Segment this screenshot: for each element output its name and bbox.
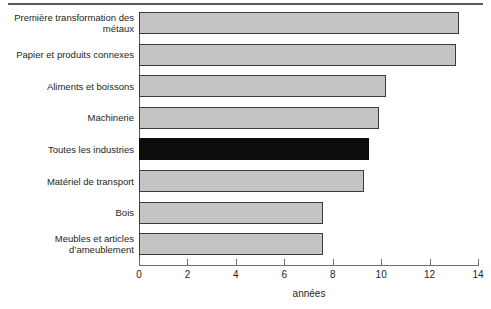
category-label: Première transformation desmétaux <box>0 12 134 34</box>
x-axis-tick-label: 12 <box>410 269 450 281</box>
category-label-line: Aliments et boissons <box>0 81 134 92</box>
bar-chart-plot: Première transformation desmétauxPapier … <box>0 0 491 309</box>
x-axis-tick-mark <box>333 259 334 266</box>
x-axis-title: années <box>139 288 479 299</box>
x-axis-tick-mark <box>284 259 285 266</box>
x-axis-tick-mark <box>139 259 140 266</box>
category-label: Meubles et articlesd’ameublement <box>0 233 134 255</box>
category-label-line: Matériel de transport <box>0 176 134 187</box>
category-label-line: Machinerie <box>0 112 134 123</box>
bar-row: Papier et produits connexes <box>0 44 491 76</box>
bar-row: Bois <box>0 202 491 234</box>
bar-row: Aliments et boissons <box>0 75 491 107</box>
x-axis-tick-label: 2 <box>167 269 207 281</box>
bar <box>139 170 364 192</box>
bar-row: Matériel de transport <box>0 170 491 202</box>
category-label-line: métaux <box>0 23 134 34</box>
bar <box>139 233 323 255</box>
category-label: Bois <box>0 207 134 218</box>
x-axis-tick-label: 10 <box>361 269 401 281</box>
x-axis-tick-label: 14 <box>458 269 491 281</box>
x-axis-tick-label: 0 <box>119 269 159 281</box>
category-label: Aliments et boissons <box>0 81 134 92</box>
figure-panel: Première transformation desmétauxPapier … <box>0 0 491 309</box>
bar-row: Toutes les industries <box>0 138 491 170</box>
bar <box>139 202 323 224</box>
category-label: Matériel de transport <box>0 176 134 187</box>
category-label-line: Toutes les industries <box>0 144 134 155</box>
bar-highlighted <box>139 138 369 160</box>
bar <box>139 107 379 129</box>
category-label-line: Première transformation des <box>0 12 134 23</box>
bar <box>139 44 456 66</box>
category-label-line: Bois <box>0 207 134 218</box>
category-label-line: Papier et produits connexes <box>0 49 134 60</box>
x-axis-tick-label: 4 <box>216 269 256 281</box>
x-axis-tick-mark <box>187 259 188 266</box>
x-axis-tick-label: 6 <box>264 269 304 281</box>
category-label-line: Meubles et articles <box>0 233 134 244</box>
x-axis-tick-mark <box>236 259 237 266</box>
bar <box>139 12 459 34</box>
bar-row: Machinerie <box>0 107 491 139</box>
category-label: Papier et produits connexes <box>0 49 134 60</box>
bar <box>139 75 386 97</box>
category-label-line: d’ameublement <box>0 244 134 255</box>
x-axis-tick-mark <box>430 259 431 266</box>
x-axis-tick-mark <box>381 259 382 266</box>
category-label: Machinerie <box>0 112 134 123</box>
bar-row: Meubles et articlesd’ameublement <box>0 233 491 265</box>
x-axis-tick-label: 8 <box>313 269 353 281</box>
x-axis-tick-mark <box>478 259 479 266</box>
category-label: Toutes les industries <box>0 144 134 155</box>
bar-row: Première transformation desmétaux <box>0 12 491 44</box>
